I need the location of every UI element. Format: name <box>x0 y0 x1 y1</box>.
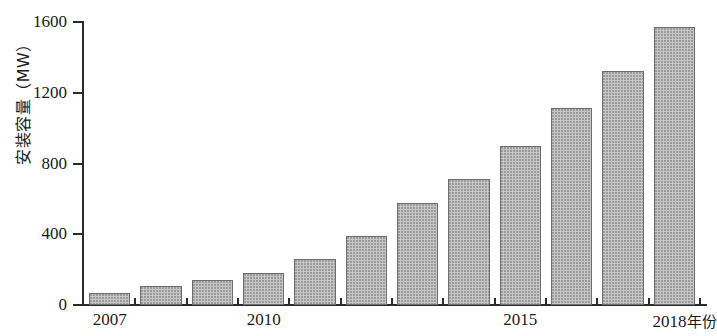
x-axis-year-text: 2010 <box>247 310 281 329</box>
bar <box>346 236 387 305</box>
bar <box>294 259 335 305</box>
y-axis-tick-label: 1600 <box>33 12 67 32</box>
x-axis-tick-label: 2018年份 <box>653 310 717 332</box>
y-axis-title: 安装容量（MW） <box>10 0 34 200</box>
y-axis-tick-label: 400 <box>42 224 68 244</box>
y-axis-tick: 800 <box>73 163 83 165</box>
bar <box>448 179 489 305</box>
y-axis-tick: 400 <box>73 233 83 235</box>
bar <box>89 293 130 305</box>
x-axis-year-text: 2007 <box>93 310 127 329</box>
x-axis-year-text: 2015 <box>503 310 537 329</box>
bar <box>602 71 643 305</box>
x-axis-year-text: 2018 <box>653 312 687 331</box>
bar <box>397 203 438 305</box>
plot-area <box>84 22 700 305</box>
x-axis-tick-label: 2007 <box>93 310 127 330</box>
bar <box>140 286 181 305</box>
bar <box>192 280 233 305</box>
x-axis-tick-label: 2015 <box>503 310 537 330</box>
y-axis-tick-label: 0 <box>59 295 68 315</box>
x-axis-tick-label: 2010 <box>247 310 281 330</box>
y-axis-tick-label: 1200 <box>33 83 67 103</box>
bar <box>654 27 695 305</box>
bar <box>551 108 592 305</box>
y-axis-tick: 1200 <box>73 92 83 94</box>
x-axis-unit-label: 年份 <box>687 313 717 331</box>
bar <box>243 273 284 305</box>
bar <box>500 146 541 305</box>
y-axis-tick-label: 800 <box>42 154 68 174</box>
y-axis-tick: 0 <box>73 304 83 306</box>
y-axis-tick: 1600 <box>73 21 83 23</box>
